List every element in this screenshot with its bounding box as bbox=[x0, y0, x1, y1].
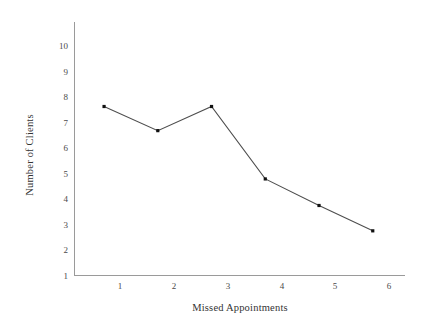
y-tick-label: 5 bbox=[64, 169, 69, 179]
x-tick-label: 1 bbox=[118, 281, 123, 291]
x-tick-label: 2 bbox=[172, 281, 177, 291]
y-tick-label: 2 bbox=[64, 245, 69, 255]
y-tick-label: 8 bbox=[64, 92, 69, 102]
y-tick-label: 10 bbox=[59, 41, 69, 51]
x-tick-label: 5 bbox=[333, 281, 338, 291]
x-tick-label: 3 bbox=[226, 281, 231, 291]
line-chart-canvas: 1 2 3 4 5 6 7 8 9 10 1 2 3 4 5 6 Missed … bbox=[0, 0, 421, 326]
y-tick-label: 9 bbox=[64, 67, 69, 77]
x-tick-label: 6 bbox=[387, 281, 392, 291]
y-tick-label: 4 bbox=[64, 194, 69, 204]
y-tick-label: 3 bbox=[64, 220, 69, 230]
y-tick-label: 7 bbox=[64, 118, 69, 128]
data-point-marker bbox=[210, 105, 213, 108]
data-point-marker bbox=[156, 129, 159, 132]
y-tick-label: 1 bbox=[64, 271, 69, 281]
chart-figure: 1 2 3 4 5 6 7 8 9 10 1 2 3 4 5 6 Missed … bbox=[0, 0, 421, 326]
data-point-marker bbox=[102, 105, 105, 108]
data-point-marker bbox=[371, 229, 374, 232]
y-axis-title: Number of Clients bbox=[24, 114, 35, 196]
x-tick-label: 4 bbox=[280, 281, 285, 291]
y-tick-label: 6 bbox=[64, 143, 69, 153]
data-point-marker bbox=[264, 177, 267, 180]
x-axis-title: Missed Appointments bbox=[192, 302, 288, 313]
data-point-marker bbox=[317, 204, 320, 207]
